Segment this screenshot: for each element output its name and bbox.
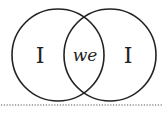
venn-diagram: I we I — [0, 0, 165, 116]
right-circle-label: I — [124, 43, 133, 68]
left-circle-label: I — [36, 43, 45, 68]
intersection-label: we — [73, 45, 98, 65]
